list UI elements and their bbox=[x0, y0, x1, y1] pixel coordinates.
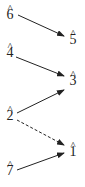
hat-icon: ^ bbox=[67, 26, 79, 40]
hat-icon: ^ bbox=[67, 138, 79, 152]
hat-icon: ^ bbox=[4, 39, 16, 53]
arrow-2-to-1-dashed bbox=[17, 120, 64, 145]
scale-degree-diagram: ^6 ^5 ^4 ^3 ^2 ^1 ^7 bbox=[0, 0, 85, 187]
degree-6: ^6 bbox=[4, 8, 16, 22]
degree-2: ^2 bbox=[4, 109, 16, 123]
degree-1: ^1 bbox=[67, 145, 79, 159]
arrow-6-to-5 bbox=[18, 15, 64, 36]
hat-icon: ^ bbox=[4, 1, 16, 15]
arrow-7-to-1 bbox=[17, 153, 64, 170]
arrow-4-to-3 bbox=[16, 57, 64, 76]
degree-5: ^5 bbox=[67, 33, 79, 47]
degree-4: ^4 bbox=[4, 46, 16, 60]
arrow-2-to-3 bbox=[17, 90, 64, 113]
hat-icon: ^ bbox=[4, 157, 16, 171]
hat-icon: ^ bbox=[67, 67, 79, 81]
degree-7: ^7 bbox=[4, 164, 16, 178]
degree-3: ^3 bbox=[67, 74, 79, 88]
hat-icon: ^ bbox=[4, 102, 16, 116]
